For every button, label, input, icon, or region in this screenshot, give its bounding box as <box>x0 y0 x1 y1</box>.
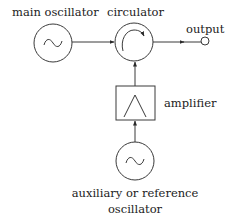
auxiliary-oscillator <box>116 142 154 180</box>
output-label: output <box>186 22 225 36</box>
sine-wave-icon <box>44 39 62 46</box>
sine-wave-icon <box>126 157 144 164</box>
amplifier <box>116 86 155 120</box>
circulator <box>115 23 153 61</box>
output-terminal <box>201 37 209 45</box>
main-oscillator <box>34 24 72 62</box>
main-oscillator-label: main oscillator <box>12 5 99 19</box>
circulator-label: circulator <box>107 5 165 19</box>
auxiliary-oscillator-label-line2: oscillator <box>108 202 163 216</box>
circular-arrow-icon <box>122 30 144 51</box>
amplifier-label: amplifier <box>164 96 217 110</box>
injection-locking-diagram: main oscillator circulator output amplif… <box>0 0 237 223</box>
auxiliary-oscillator-label-line1: auxiliary or reference <box>72 186 199 200</box>
triangle-icon <box>124 95 146 117</box>
